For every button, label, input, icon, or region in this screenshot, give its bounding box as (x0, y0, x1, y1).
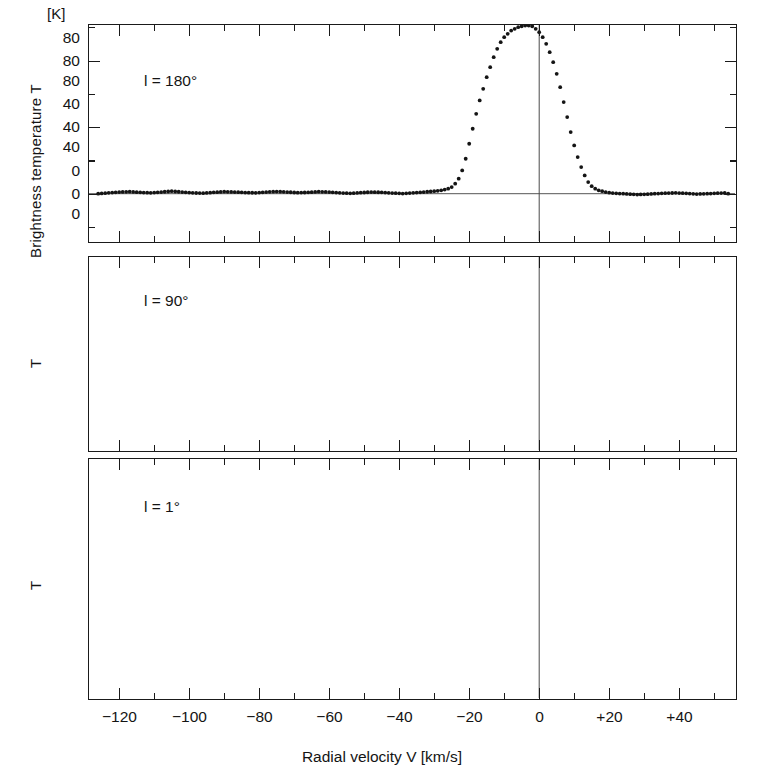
x-tick-10 (574, 693, 575, 699)
y-axis-label-panel-3: T (27, 581, 44, 590)
x-tick--80 (259, 231, 260, 242)
x-tick-top-20 (609, 257, 610, 268)
x-axis-label: Radial velocity V [km/s] (0, 748, 764, 766)
y-tick-right-40 (725, 127, 736, 128)
x-tick-top-50 (714, 459, 715, 465)
x-tick-top--30 (434, 257, 435, 263)
x-tick-label-20: +20 (580, 709, 640, 725)
y-tick-label-panel-1-80: 80 (40, 53, 80, 69)
x-tick-top--100 (189, 459, 190, 470)
y-tick-label-panel-1-0: 0 (40, 186, 80, 202)
panel-annotation-panel-2: l = 90° (144, 292, 189, 310)
x-tick-top--50 (364, 257, 365, 263)
y-tick--20 (89, 227, 95, 228)
x-tick-top--70 (294, 25, 295, 31)
x-tick-top-50 (714, 25, 715, 31)
x-tick-0 (539, 440, 540, 451)
x-tick-top--90 (224, 25, 225, 31)
x-tick--40 (399, 231, 400, 242)
x-tick--60 (329, 688, 330, 699)
x-tick-top-50 (714, 257, 715, 263)
x-tick--20 (469, 231, 470, 242)
y-axis-label-panel-2: T (27, 359, 44, 368)
figure-root: [K] Brightness temperature T T T Radial … (0, 0, 764, 781)
y-tick-80 (89, 61, 100, 62)
data-plot-svg (89, 459, 735, 698)
x-tick-top--110 (154, 459, 155, 465)
x-tick--40 (399, 688, 400, 699)
x-tick-top--110 (154, 25, 155, 31)
x-tick-top-40 (679, 257, 680, 268)
x-tick--90 (224, 445, 225, 451)
x-tick--80 (259, 440, 260, 451)
x-tick-top--10 (504, 459, 505, 465)
x-tick--70 (294, 236, 295, 242)
x-tick-top--100 (189, 257, 190, 268)
x-tick-label--20: −20 (440, 709, 500, 725)
x-tick-30 (644, 693, 645, 699)
x-tick-top--120 (119, 25, 120, 36)
x-tick-top-0 (539, 459, 540, 470)
x-tick--30 (434, 236, 435, 242)
x-tick-top-10 (574, 257, 575, 263)
plot-area-l180 (89, 25, 736, 242)
x-tick-30 (644, 445, 645, 451)
x-tick-top--40 (399, 459, 400, 470)
x-tick--40 (399, 440, 400, 451)
x-tick--120 (119, 688, 120, 699)
x-tick-10 (574, 236, 575, 242)
x-tick-40 (679, 440, 680, 451)
x-tick-top--50 (364, 25, 365, 31)
x-tick-label--80: −80 (230, 709, 290, 725)
y-tick-label-panel-2-40: 40 (40, 96, 80, 112)
x-tick-top-10 (574, 459, 575, 465)
x-tick-top-30 (644, 257, 645, 263)
x-tick-top--20 (469, 25, 470, 36)
plot-panel-l180 (88, 24, 737, 243)
x-tick-top--70 (294, 459, 295, 465)
x-tick-label--120: −120 (90, 709, 150, 725)
x-tick-top-20 (609, 25, 610, 36)
data-series-l=180 (96, 25, 730, 196)
x-tick-top--60 (329, 25, 330, 36)
x-tick-top--40 (399, 25, 400, 36)
plot-area-l1 (89, 459, 736, 699)
x-tick--30 (434, 445, 435, 451)
x-tick--60 (329, 440, 330, 451)
x-tick-top-30 (644, 25, 645, 31)
x-tick-top-40 (679, 459, 680, 470)
x-tick--20 (469, 440, 470, 451)
y-tick-60 (89, 94, 95, 95)
y-tick-label-panel-1-40: 40 (40, 119, 80, 135)
x-tick--50 (364, 693, 365, 699)
x-tick--100 (189, 688, 190, 699)
x-tick--110 (154, 693, 155, 699)
x-tick-top--100 (189, 25, 190, 36)
y-tick-right-60 (730, 94, 736, 95)
y-tick-right-100 (730, 27, 736, 28)
x-tick--70 (294, 693, 295, 699)
x-tick-top--120 (119, 459, 120, 470)
x-tick--90 (224, 236, 225, 242)
y-tick-0 (89, 194, 100, 195)
x-tick-top-20 (609, 459, 610, 470)
x-tick-top--80 (259, 25, 260, 36)
y-tick-label-panel-2-80: 80 (40, 30, 80, 46)
x-tick-40 (679, 688, 680, 699)
x-tick-top--60 (329, 257, 330, 268)
x-tick-40 (679, 231, 680, 242)
panel-annotation-panel-1: l = 180° (144, 72, 197, 90)
x-tick-top--30 (434, 25, 435, 31)
data-plot-svg (89, 257, 735, 450)
x-tick-label-40: +40 (650, 709, 710, 725)
x-tick-50 (714, 445, 715, 451)
x-tick-0 (539, 231, 540, 242)
plot-panel-l1 (88, 458, 737, 700)
x-tick--110 (154, 236, 155, 242)
x-tick-top--70 (294, 257, 295, 263)
x-tick-0 (539, 688, 540, 699)
y-tick-right-80 (725, 61, 736, 62)
x-tick-top--20 (469, 459, 470, 470)
x-tick--120 (119, 231, 120, 242)
x-tick-20 (609, 440, 610, 451)
